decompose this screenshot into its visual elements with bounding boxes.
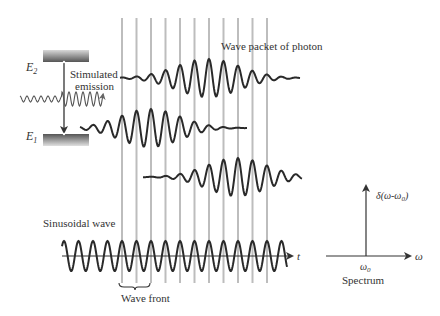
incident-photon-wave bbox=[20, 92, 103, 106]
e1-label: E1 bbox=[25, 129, 37, 145]
diagram: E2 E1 Stimulated emission Wave packet of… bbox=[0, 0, 440, 316]
t-axis-label: t bbox=[297, 250, 301, 262]
delta-label: δ(ω-ω0) bbox=[376, 190, 409, 203]
stimulated-emission-diagram: E2 E1 Stimulated emission Wave packet of… bbox=[0, 0, 440, 316]
omega0-label: ω0 bbox=[360, 261, 371, 274]
wave-front-label: Wave front bbox=[121, 292, 170, 304]
sinusoidal-label: Sinusoidal wave bbox=[43, 217, 116, 229]
wave-front-brace bbox=[119, 283, 150, 290]
wavefront-lines bbox=[122, 18, 267, 283]
e1-dot bbox=[63, 133, 65, 135]
emission-label: emission bbox=[75, 80, 115, 92]
e2-label: E2 bbox=[25, 60, 37, 76]
energy-level-e1 bbox=[43, 134, 89, 146]
energy-level-e2 bbox=[43, 50, 89, 62]
stimulated-label: Stimulated bbox=[70, 68, 118, 80]
wave-packet-label: Wave packet of photon bbox=[221, 40, 323, 52]
wave-packet-middle bbox=[80, 109, 247, 146]
omega-axis-label: ω bbox=[415, 250, 423, 262]
e2-dot bbox=[63, 61, 65, 63]
spectrum-label: Spectrum bbox=[342, 274, 385, 286]
